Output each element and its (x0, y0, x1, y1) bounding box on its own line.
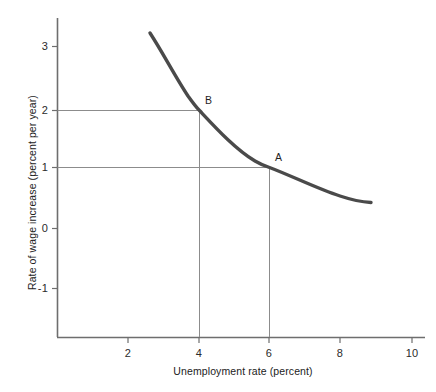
phillips-curve-path (150, 33, 371, 203)
chart-canvas (0, 0, 436, 392)
x-axis-ticks (128, 338, 412, 344)
x-tick-label-4: 4 (196, 348, 202, 359)
x-tick-label-10: 10 (406, 348, 419, 359)
y-tick-label-3: 3 (34, 41, 48, 52)
annotation-label-b: B (205, 95, 212, 106)
x-tick-label-8: 8 (337, 348, 343, 359)
x-tick-label-6: 6 (266, 348, 272, 359)
phillips-curve-figure: 2 4 6 8 10 3 2 1 0 -1 B A Unemployment r… (0, 0, 436, 392)
annotation-label-a: A (275, 152, 282, 163)
y-axis-ticks (52, 47, 58, 289)
x-axis-title: Unemployment rate (percent) (173, 365, 312, 377)
x-tick-label-2: 2 (125, 348, 131, 359)
axes-group (57, 18, 425, 338)
guide-lines-group (58, 111, 270, 338)
y-axis-title: Rate of wage increase (percent per year) (26, 95, 38, 290)
